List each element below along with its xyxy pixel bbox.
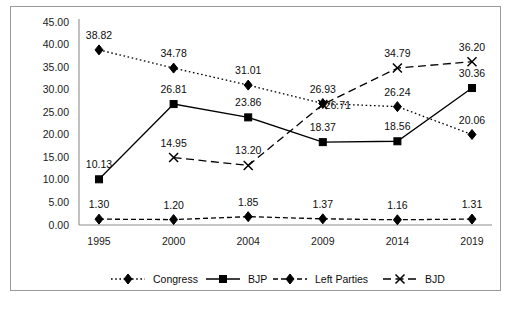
data-label: 26.81 — [160, 83, 186, 95]
series-line — [99, 217, 472, 220]
legend-item-left-parties[interactable]: Left Parties — [273, 273, 368, 285]
x-tick-label: 2004 — [237, 235, 261, 247]
series-layer — [95, 45, 477, 225]
x-tick-label: 2014 — [386, 235, 410, 247]
data-label: 1.20 — [163, 199, 184, 211]
legend-label: BJP — [248, 273, 267, 285]
y-tick-label: 35.00 — [43, 61, 69, 73]
legend-label: Congress — [153, 273, 198, 285]
data-point-marker — [96, 176, 103, 183]
data-label: 14.95 — [160, 137, 186, 149]
x-tick-label: 2019 — [460, 235, 484, 247]
chart-legend: CongressBJPLeft PartiesBJD — [111, 273, 445, 285]
data-label: 1.85 — [238, 196, 259, 208]
legend-marker-diamond-icon — [124, 274, 132, 284]
series-line — [174, 62, 472, 166]
data-label: 13.20 — [235, 144, 261, 156]
x-tick-label: 2009 — [311, 235, 335, 247]
data-label: 30.36 — [459, 67, 485, 79]
data-point-marker — [319, 139, 326, 146]
x-tick-label: 2000 — [162, 235, 186, 247]
data-label: 23.86 — [235, 96, 261, 108]
legend-marker-square-icon — [220, 276, 227, 283]
data-label: 31.01 — [235, 64, 261, 76]
series-left-parties — [95, 212, 476, 225]
data-point-marker — [95, 45, 103, 55]
y-tick-label: 30.00 — [43, 83, 69, 95]
legend-item-bjp[interactable]: BJP — [206, 273, 267, 285]
y-tick-label: 25.00 — [43, 106, 69, 118]
data-point-marker — [244, 161, 253, 170]
data-label: 36.20 — [459, 41, 485, 53]
data-point-marker — [245, 114, 252, 121]
data-label: 26.24 — [384, 86, 410, 98]
y-axis-tick-labels: 0.005.0010.0015.0020.0025.0030.0035.0040… — [43, 16, 69, 231]
legend-label: BJD — [425, 273, 445, 285]
data-label: 26.71 — [325, 99, 351, 111]
series-line — [99, 88, 472, 179]
data-label: 1.31 — [462, 198, 483, 210]
chart-frame: 0.005.0010.0015.0020.0025.0030.0035.0040… — [10, 6, 501, 291]
data-label: 34.79 — [384, 47, 410, 59]
data-label: 18.56 — [384, 120, 410, 132]
data-point-marker — [244, 212, 252, 222]
data-point-marker — [468, 130, 476, 140]
y-tick-label: 15.00 — [43, 151, 69, 163]
x-tick-label: 1995 — [87, 235, 111, 247]
data-point-marker — [468, 214, 476, 224]
data-label: 1.16 — [387, 199, 408, 211]
data-label: 1.30 — [89, 198, 110, 210]
data-point-marker — [170, 63, 178, 73]
data-point-marker — [469, 85, 476, 92]
x-axis-tick-labels: 199520002004200920142019 — [87, 235, 484, 247]
legend-label: Left Parties — [315, 273, 368, 285]
data-point-marker — [319, 214, 327, 224]
y-tick-label: 45.00 — [43, 16, 69, 28]
data-label: 26.93 — [310, 83, 336, 95]
y-tick-label: 10.00 — [43, 173, 69, 185]
data-point-marker — [95, 214, 103, 224]
axis-lines — [79, 19, 492, 225]
series-bjp — [96, 85, 476, 183]
data-point-marker — [244, 80, 252, 90]
line-chart: 0.005.0010.0015.0020.0025.0030.0035.0040… — [11, 7, 502, 292]
legend-item-bjd[interactable]: BJD — [383, 273, 445, 285]
data-label: 34.78 — [160, 47, 186, 59]
y-tick-label: 5.00 — [49, 196, 70, 208]
legend-marker-diamond-icon — [286, 274, 294, 284]
data-point-marker — [393, 102, 401, 112]
data-point-marker — [170, 215, 178, 225]
y-tick-label: 20.00 — [43, 128, 69, 140]
data-label: 1.37 — [313, 198, 334, 210]
y-tick-label: 40.00 — [43, 38, 69, 50]
data-point-marker — [394, 138, 401, 145]
data-label: 20.06 — [459, 114, 485, 126]
data-point-marker — [393, 215, 401, 225]
data-label-layer: 38.8234.7831.0126.9326.2420.0610.1326.81… — [86, 29, 485, 211]
legend-item-congress[interactable]: Congress — [111, 273, 198, 285]
series-bjd — [169, 57, 476, 170]
data-point-marker — [170, 101, 177, 108]
data-label: 18.37 — [310, 121, 336, 133]
data-label: 10.13 — [86, 158, 112, 170]
series-line — [99, 50, 472, 135]
y-tick-label: 0.00 — [49, 219, 70, 231]
data-label: 38.82 — [86, 29, 112, 41]
